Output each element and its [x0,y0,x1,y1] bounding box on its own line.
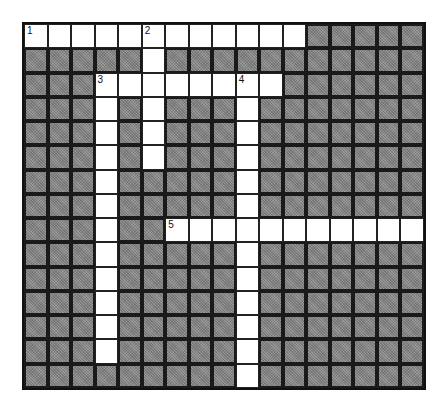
crossword-cell[interactable] [377,218,401,242]
block-cell [353,194,377,218]
crossword-cell[interactable] [236,267,260,291]
crossword-cell[interactable] [118,73,142,97]
crossword-cell[interactable] [142,48,166,72]
block-cell [71,242,95,266]
crossword-cell[interactable] [236,242,260,266]
crossword-cell[interactable] [142,145,166,169]
crossword-cell[interactable] [95,24,119,48]
block-cell [118,291,142,315]
block-cell [48,267,72,291]
crossword-cell[interactable]: 1 [24,24,48,48]
block-cell [353,267,377,291]
crossword-cell[interactable] [236,145,260,169]
crossword-cell[interactable] [236,291,260,315]
crossword-cell[interactable] [400,218,424,242]
crossword-cell[interactable] [236,218,260,242]
block-cell [24,315,48,339]
crossword-cell[interactable] [353,218,377,242]
crossword-cell[interactable] [48,24,72,48]
crossword-cell[interactable]: 5 [165,218,189,242]
block-cell [306,291,330,315]
block-cell [283,242,307,266]
crossword-cell[interactable] [189,24,213,48]
crossword-cell[interactable] [236,339,260,363]
block-cell [48,97,72,121]
block-cell [71,267,95,291]
block-cell [259,315,283,339]
crossword-cell[interactable] [212,24,236,48]
crossword-cell[interactable] [95,170,119,194]
crossword-cell[interactable] [95,145,119,169]
crossword-cell[interactable] [71,24,95,48]
crossword-cell[interactable] [259,218,283,242]
block-cell [118,218,142,242]
block-cell [48,315,72,339]
crossword-cell[interactable] [95,97,119,121]
block-cell [48,48,72,72]
crossword-cell[interactable] [330,218,354,242]
crossword-cell[interactable] [165,73,189,97]
crossword-cell[interactable] [189,73,213,97]
crossword-cell[interactable] [95,291,119,315]
crossword-cell[interactable] [212,73,236,97]
crossword-cell[interactable] [118,24,142,48]
block-cell [212,242,236,266]
crossword-cell[interactable] [236,24,260,48]
crossword-cell[interactable] [95,121,119,145]
block-cell [306,170,330,194]
crossword-cell[interactable] [95,315,119,339]
crossword-cell[interactable] [95,267,119,291]
block-cell [353,121,377,145]
block-cell [118,97,142,121]
block-cell [212,291,236,315]
block-cell [353,339,377,363]
crossword-cell[interactable]: 2 [142,24,166,48]
crossword-cell[interactable] [142,97,166,121]
crossword-cell[interactable] [283,24,307,48]
block-cell [165,339,189,363]
block-cell [189,242,213,266]
block-cell [142,315,166,339]
block-cell [24,339,48,363]
block-cell [353,24,377,48]
block-cell [48,73,72,97]
crossword-cell[interactable] [189,218,213,242]
crossword-cell[interactable] [259,24,283,48]
crossword-cell[interactable] [95,218,119,242]
block-cell [212,267,236,291]
crossword-cell[interactable] [236,121,260,145]
block-cell [24,364,48,388]
crossword-cell[interactable] [95,339,119,363]
crossword-cell[interactable]: 4 [236,73,260,97]
crossword-cell[interactable] [95,242,119,266]
block-cell [118,170,142,194]
crossword-cell[interactable] [306,218,330,242]
crossword-cell[interactable] [236,364,260,388]
crossword-cell[interactable] [142,121,166,145]
crossword-cell[interactable] [95,194,119,218]
block-cell [24,170,48,194]
block-cell [142,267,166,291]
block-cell [95,48,119,72]
block-cell [189,315,213,339]
crossword-cell[interactable] [236,170,260,194]
block-cell [48,194,72,218]
block-cell [189,364,213,388]
crossword-cell[interactable] [236,97,260,121]
crossword-cell[interactable] [236,315,260,339]
crossword-cell[interactable] [165,24,189,48]
block-cell [48,121,72,145]
block-cell [212,364,236,388]
block-cell [377,242,401,266]
crossword-cell[interactable] [283,218,307,242]
crossword-cell[interactable] [259,73,283,97]
crossword-cell[interactable] [236,194,260,218]
block-cell [400,339,424,363]
block-cell [259,121,283,145]
block-cell [48,339,72,363]
crossword-cell[interactable] [212,218,236,242]
block-cell [259,267,283,291]
crossword-cell[interactable] [142,73,166,97]
block-cell [24,73,48,97]
crossword-cell[interactable]: 3 [95,73,119,97]
